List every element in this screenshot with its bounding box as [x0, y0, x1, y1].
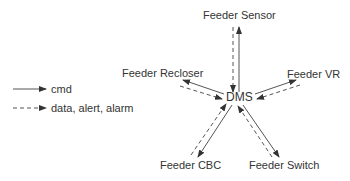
node-feeder-sensor: Feeder Sensor [203, 9, 276, 21]
node-feeder-switch: Feeder Switch [249, 159, 319, 171]
node-dms: DMS [226, 91, 253, 103]
edge-dms-to-recloser-cmd [183, 80, 224, 94]
edge-dms-to-switch-cmd [243, 105, 279, 157]
node-feeder-recloser: Feeder Recloser [122, 67, 203, 79]
legend-data-label: data, alert, alarm [51, 102, 134, 114]
edge-dms-to-vr-cmd [255, 80, 296, 94]
edge-switch-to-dms-data [238, 106, 272, 157]
legend-cmd-label: cmd [51, 83, 72, 95]
edge-recloser-to-dms-data [180, 86, 222, 99]
edge-dms-to-cbc-cmd [198, 105, 232, 157]
edge-vr-to-dms-data [257, 85, 300, 99]
node-feeder-cbc: Feeder CBC [160, 159, 221, 171]
edge-cbc-to-dms-data [191, 104, 226, 155]
node-feeder-vr: Feeder VR [287, 68, 340, 80]
